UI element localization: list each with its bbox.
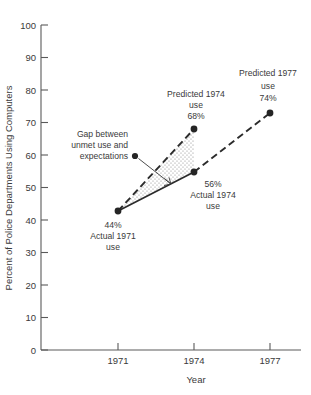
y-tick-label-0: 0 (31, 345, 36, 356)
actual-1974-label-line1: 56% (204, 179, 222, 189)
y-tick-label-90: 90 (25, 52, 36, 63)
x-axis: 1971 1974 1977 Year (41, 343, 301, 385)
actual-1974-label-line2: Actual 1974 (190, 190, 236, 200)
line-chart: 100 90 80 70 60 50 40 30 20 10 0 Percent… (0, 0, 311, 395)
y-tick-label-10: 10 (25, 312, 36, 323)
predicted-1974-label-line1: Predicted 1974 (167, 89, 225, 99)
predicted-1977-label-line3: 74% (259, 93, 277, 103)
y-tick-label-70: 70 (25, 117, 36, 128)
data-point-predicted-1977 (267, 110, 274, 117)
y-tick-label-20: 20 (25, 280, 36, 291)
y-axis-title: Percent of Police Departments Using Comp… (3, 85, 14, 290)
predicted-1974-label: Predicted 1974 use 68% (167, 89, 225, 121)
predicted-1974-label-line2: use (189, 100, 203, 110)
chart-page: 100 90 80 70 60 50 40 30 20 10 0 Percent… (0, 0, 311, 395)
y-axis: 100 90 80 70 60 50 40 30 20 10 0 Percent… (3, 20, 48, 356)
predicted-1977-label-line2: use (261, 81, 275, 91)
actual-1971-label-line1: 44% (104, 220, 122, 230)
y-tick-label-40: 40 (25, 215, 36, 226)
gap-annotation-line3: expectations (80, 151, 128, 161)
actual-1971-label-line3: use (106, 242, 120, 252)
x-axis-title: Year (186, 374, 205, 385)
series-predicted-1977-line (194, 113, 270, 172)
y-tick-label-50: 50 (25, 182, 36, 193)
gap-annotation-line2: unmet use and (71, 140, 128, 150)
x-tick-label-1971: 1971 (107, 355, 128, 366)
actual-1974-label: 56% Actual 1974 use (190, 179, 236, 211)
gap-annotation-bullet (132, 153, 138, 159)
actual-1971-label-line2: Actual 1971 (90, 231, 136, 241)
actual-1974-label-line3: use (206, 201, 220, 211)
y-tick-label-80: 80 (25, 85, 36, 96)
x-tick-label-1974: 1974 (183, 355, 204, 366)
data-point-predicted-1974 (191, 126, 198, 133)
actual-1971-label: 44% Actual 1971 use (90, 220, 136, 252)
gap-annotation-line1: Gap between (77, 129, 128, 139)
data-point-actual-1974 (191, 169, 198, 176)
x-tick-label-1977: 1977 (259, 355, 280, 366)
data-point-actual-1971 (115, 208, 122, 215)
predicted-1977-label: Predicted 1977 use 74% (239, 68, 297, 103)
y-tick-label-30: 30 (25, 247, 36, 258)
predicted-1974-label-line3: 68% (187, 111, 205, 121)
predicted-1977-label-line1: Predicted 1977 (239, 68, 297, 78)
y-tick-label-100: 100 (20, 20, 36, 31)
y-tick-label-60: 60 (25, 150, 36, 161)
